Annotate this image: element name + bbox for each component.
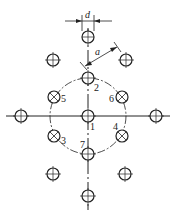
hole-lower-right — [117, 166, 133, 182]
hole-left — [13, 108, 29, 124]
diameter-label: d — [85, 9, 91, 20]
hole-pattern-diagram: d a 1 2 3 4 5 6 7 — [0, 0, 176, 222]
hole-6-label: 6 — [109, 93, 114, 104]
hole-5 — [48, 91, 60, 103]
spacing-label: a — [95, 46, 100, 57]
hole-lower-left — [45, 166, 61, 182]
hole-3 — [48, 130, 60, 142]
hole-upper-left — [45, 52, 61, 68]
hole-5-label: 5 — [61, 93, 66, 104]
hole-bottom — [80, 188, 96, 206]
hole-top — [82, 29, 94, 45]
hole-upper-right — [118, 52, 134, 68]
hole-7-label: 7 — [80, 139, 85, 150]
hole-6 — [116, 91, 128, 103]
hole-4-label: 4 — [113, 121, 118, 132]
hole-3-label: 3 — [61, 135, 66, 146]
hole-2-label: 2 — [94, 82, 99, 93]
hole-1-label: 1 — [90, 121, 95, 132]
hole-right — [148, 108, 164, 124]
